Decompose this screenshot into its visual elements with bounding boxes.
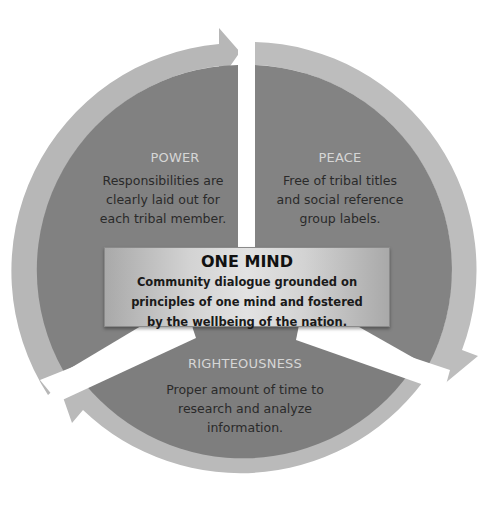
segment-text-line: information. — [150, 418, 340, 437]
segment-text-line: clearly laid out for — [78, 190, 248, 209]
center-text-line: principles of one mind and fostered — [105, 292, 389, 312]
segment-title-peace: PEACE — [275, 150, 405, 165]
segment-text-line: Proper amount of time to — [150, 380, 340, 399]
segment-text-line: each tribal member. — [78, 209, 248, 228]
segment-title-power: POWER — [110, 150, 240, 165]
segment-text-line: group labels. — [255, 209, 425, 228]
center-text-line: by the wellbeing of the nation. — [105, 312, 389, 332]
segment-text-line: and social reference — [255, 190, 425, 209]
segment-text-line: Free of tribal titles — [255, 171, 425, 190]
segment-text-power: Responsibilities are clearly laid out fo… — [78, 171, 248, 228]
segment-text-peace: Free of tribal titles and social referen… — [255, 171, 425, 228]
center-text-line: Community dialogue grounded on — [105, 272, 389, 292]
segment-text-line: Responsibilities are — [78, 171, 248, 190]
segment-text-righteousness: Proper amount of time to research and an… — [150, 380, 340, 437]
center-title: ONE MIND — [105, 252, 389, 272]
segment-title-righteousness: RIGHTEOUSNESS — [170, 356, 320, 371]
segment-text-line: research and analyze — [150, 399, 340, 418]
center-box: ONE MIND Community dialogue grounded on … — [104, 247, 390, 327]
center-text: Community dialogue grounded on principle… — [105, 272, 389, 332]
